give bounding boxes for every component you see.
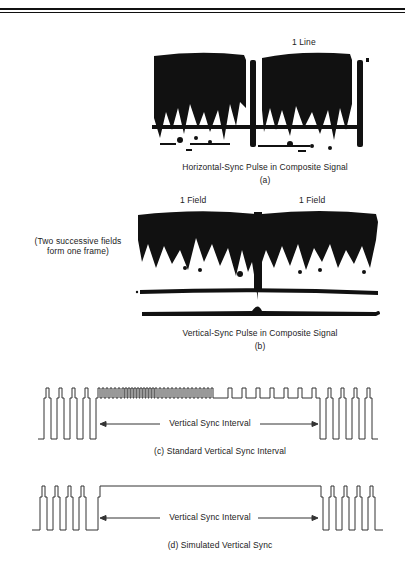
panel-b-caption: Vertical-Sync Pulse in Composite Signal	[150, 328, 370, 338]
horizontal-sync-trace	[152, 53, 369, 152]
panel-d-caption: (d) Simulated Vertical Sync	[120, 540, 320, 550]
panel-a-letter: (a)	[150, 175, 380, 185]
panel-c-caption: (c) Standard Vertical Sync Interval	[120, 446, 320, 456]
standard-vsync-waveform	[38, 388, 378, 439]
field-label-1: 1 Field	[180, 195, 206, 205]
standard-vsync-interval-label: Vertical Sync Interval	[160, 418, 260, 428]
frame-note-line2: form one frame)	[18, 246, 138, 256]
simulated-vsync-waveform	[32, 486, 383, 530]
panel-b-letter: (b)	[150, 341, 370, 351]
simulated-vsync-interval-label: Vertical Sync Interval	[160, 512, 260, 522]
frame-note-line1: (Two successive fields	[18, 236, 138, 246]
panel-a-caption: Horizontal-Sync Pulse in Composite Signa…	[150, 162, 380, 172]
oscilloscope-images	[0, 0, 405, 564]
field-label-2: 1 Field	[299, 195, 325, 205]
vertical-sync-trace	[136, 211, 380, 316]
